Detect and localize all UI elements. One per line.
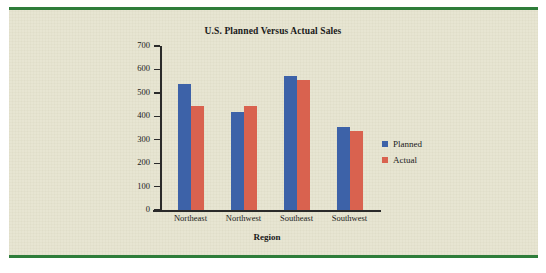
- legend-swatch-planned-icon: [382, 141, 388, 147]
- y-axis-tick-label-text: 100: [116, 182, 150, 191]
- legend-swatch-actual-icon: [382, 157, 388, 163]
- y-axis-tick: [154, 92, 160, 93]
- y-axis-tick: [154, 186, 160, 187]
- y-axis-tick: [154, 163, 160, 164]
- y-axis-tick-label: 100: [116, 182, 150, 192]
- x-axis-line: [153, 210, 381, 212]
- bar-southeast-planned: [284, 76, 297, 210]
- y-axis-tick-label-text: 400: [116, 111, 150, 120]
- bar-northeast-actual: [191, 106, 204, 210]
- bar-northwest-actual: [244, 106, 257, 210]
- bar-northwest-planned: [231, 112, 244, 210]
- legend-item-planned: Planned: [382, 136, 422, 152]
- legend-item-actual: Actual: [382, 152, 422, 168]
- legend-label-actual: Actual: [393, 155, 417, 165]
- x-axis-label-southwest: Southwest: [319, 213, 381, 223]
- y-axis-tick: [154, 69, 160, 70]
- y-axis-tick-label: 0: [116, 205, 150, 215]
- bar-southeast-actual: [297, 80, 310, 210]
- chart-title: U.S. Planned Versus Actual Sales: [0, 26, 546, 36]
- legend-label-planned: Planned: [393, 139, 422, 149]
- y-axis-tick-label: 400: [116, 111, 150, 121]
- bar-northeast-planned: [178, 84, 191, 210]
- y-axis-tick-label-text: 600: [116, 64, 150, 73]
- x-axis-title: Region: [161, 232, 373, 242]
- y-axis-tick: [154, 209, 160, 210]
- y-axis-tick: [154, 116, 160, 117]
- bar-southwest-actual: [350, 131, 363, 210]
- y-axis-tick: [154, 45, 160, 46]
- plot-area: Sales ($1000): [161, 46, 373, 210]
- y-axis-tick-label-text: 0: [116, 205, 150, 214]
- y-axis-tick-label: 700: [116, 41, 150, 51]
- y-axis-tick-label-text: 200: [116, 158, 150, 167]
- y-axis-tick-label: 600: [116, 64, 150, 74]
- bottom-rule: [9, 255, 538, 258]
- chart-legend: Planned Actual: [382, 136, 422, 168]
- y-axis-tick-label: 200: [116, 158, 150, 168]
- bar-southwest-planned: [337, 127, 350, 210]
- y-axis-tick-label-text: 300: [116, 135, 150, 144]
- y-axis-tick-label-text: 500: [116, 88, 150, 97]
- y-axis-tick-label: 300: [116, 135, 150, 145]
- y-axis-tick-label-text: 700: [116, 41, 150, 50]
- y-axis-tick: [154, 139, 160, 140]
- figure-root: U.S. Planned Versus Actual Sales 0100200…: [0, 0, 546, 273]
- y-axis-tick-label: 500: [116, 88, 150, 98]
